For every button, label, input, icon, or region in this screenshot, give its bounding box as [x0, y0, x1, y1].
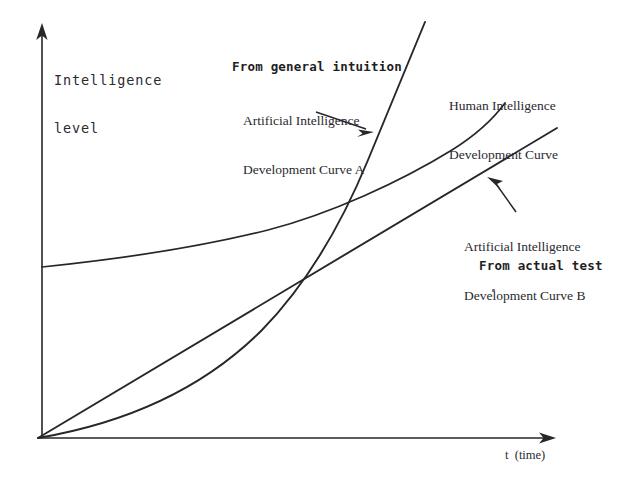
y-axis-title: Intelligence level [54, 41, 162, 168]
label-curve-a-line1: Artificial Intelligence [243, 113, 364, 129]
label-human-intelligence-curve: Human Intelligence Development Curve [449, 65, 558, 197]
label-human-line1: Human Intelligence [449, 98, 558, 114]
scan-speck-artifact [492, 289, 495, 292]
intelligence-curves-figure: .ink { fill: none; stroke: #26262b; } [0, 0, 628, 489]
x-axis-title: t (time) [505, 448, 545, 463]
caption-from-actual-test: From actual test [479, 259, 603, 274]
label-curve-b-line2: Development Curve B [464, 288, 585, 304]
caption-from-general-intuition: From general intuition [232, 60, 402, 75]
label-curve-a: Artificial Intelligence Development Curv… [243, 80, 364, 212]
label-curve-b-line1: Artificial Intelligence [464, 239, 585, 255]
y-axis-title-line1: Intelligence [54, 73, 162, 89]
label-human-line2: Development Curve [449, 147, 558, 163]
y-axis-title-line2: level [54, 121, 162, 137]
label-curve-a-line2: Development Curve A [243, 162, 364, 178]
